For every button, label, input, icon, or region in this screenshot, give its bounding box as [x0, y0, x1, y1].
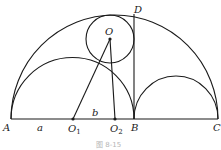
point-o1	[71, 117, 74, 120]
label-c-point: C	[213, 122, 221, 133]
label-b-point: B	[130, 122, 138, 133]
label-o2: O2	[110, 123, 123, 136]
right-semicircle	[134, 76, 218, 119]
left-semicircle	[11, 58, 134, 119]
figure-caption: 图 8-15	[96, 141, 121, 149]
label-o-point: O	[105, 26, 113, 37]
label-d-point: D	[133, 4, 142, 15]
label-a-point: A	[2, 122, 10, 133]
point-o2	[113, 117, 116, 120]
geometry-diagram: A a O1 b O2 B C O D 图 8-15	[0, 0, 221, 150]
segment-o-o2	[110, 39, 115, 119]
point-o	[108, 37, 111, 40]
label-segment-b: b	[92, 107, 98, 118]
label-segment-a: a	[37, 122, 43, 133]
label-o1: O1	[68, 123, 81, 136]
